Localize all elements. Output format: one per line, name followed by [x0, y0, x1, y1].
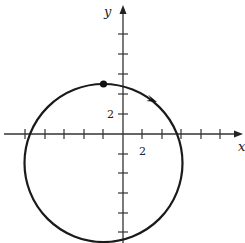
x-axis-arrow-icon [234, 131, 243, 138]
y-tick-label: 2 [107, 108, 114, 121]
x-tick-label: 2 [139, 145, 146, 158]
y-axis-arrow-icon [120, 5, 127, 14]
circle-diagram: y x 2 2 [0, 0, 245, 243]
diagram-svg: y x 2 2 [0, 0, 245, 243]
y-axis-label: y [103, 4, 112, 19]
x-axis-label: x [238, 139, 245, 154]
start-point-dot [100, 80, 107, 87]
circle-path [25, 84, 183, 242]
